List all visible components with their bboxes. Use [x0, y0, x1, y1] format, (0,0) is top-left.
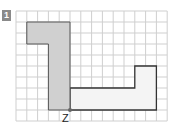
grid-diagram: [0, 0, 174, 132]
point-z-label: Z: [62, 112, 69, 124]
